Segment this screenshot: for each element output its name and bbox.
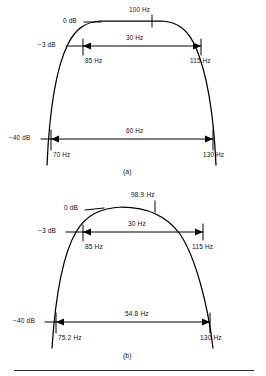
figure-bandpass-response: 100 Hz 0 dB −3 dB 30 Hz 85 Hz 115 Hz −40… [0,0,266,376]
label-minus40db-b: −40 dB [13,318,35,325]
label-center-frequency-b: 98.9 Hz [131,192,155,199]
label-lower-40db-frequency-b: 75.2 Hz [58,335,82,342]
panel-b: 98.9 Hz 0 dB −3 dB 30 Hz 85 Hz 115 Hz −4… [0,188,266,376]
response-curve-b [52,207,213,348]
label-upper-3db-frequency-a: 115 Hz [190,58,211,64]
caption-panel-a: (a) [123,168,132,175]
figure-bottom-rule [14,370,254,371]
label-lower-40db-frequency-a: 70 Hz [53,152,70,158]
label-lower-3db-frequency-a: 85 Hz [85,58,102,64]
label-minus40db-a: −40 dB [9,135,30,141]
label-center-frequency-a: 100 Hz [129,7,150,13]
label-upper-3db-frequency-b: 115 Hz [192,244,213,251]
label-bandwidth-40db-b: 54.8 Hz [125,311,149,318]
panel-b-drawing [0,188,266,376]
label-minus3db-a: −3 dB [38,42,56,48]
label-0db-b: 0 dB [64,205,78,212]
label-0db-a: 0 dB [63,18,77,24]
label-minus3db-b: −3 dB [38,228,56,235]
label-upper-40db-frequency-b: 130 Hz [200,335,222,342]
panel-a: 100 Hz 0 dB −3 dB 30 Hz 85 Hz 115 Hz −40… [0,0,266,188]
panel-a-drawing [0,0,266,188]
caption-panel-b: (b) [123,352,132,359]
response-curve-a [47,21,216,165]
label-bandwidth-3db-a: 30 Hz [126,35,143,41]
label-bandwidth-40db-a: 60 Hz [126,128,143,134]
label-bandwidth-3db-b: 30 Hz [128,221,146,228]
leader-0db-b [85,208,104,210]
label-upper-40db-frequency-a: 130 Hz [203,152,224,158]
label-lower-3db-frequency-b: 85 Hz [85,244,103,251]
